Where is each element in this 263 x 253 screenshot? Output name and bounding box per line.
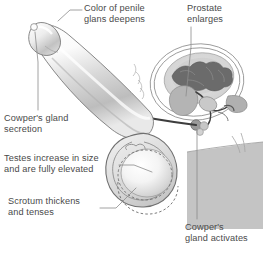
callout-label-scrotum: Scrotum thickens and tenses: [8, 196, 113, 219]
cowpers-gland: [191, 120, 208, 136]
body-mass: [187, 133, 263, 229]
callout-label-prostate: Prostate enlarges: [187, 3, 259, 26]
callout-label-cowpers-gland-secretion: Cowper's gland secretion: [4, 113, 99, 136]
callout-label-cowpers-gland-activates: Cowper's gland activates: [185, 222, 263, 245]
anatomy-figure: Color of penile glans deepens Prostate e…: [0, 0, 263, 253]
callout-label-glans: Color of penile glans deepens: [84, 3, 184, 26]
prostate-gland: [169, 86, 197, 116]
callout-label-testes: Testes increase in size and are fully el…: [4, 153, 124, 176]
leader-line-glans: [58, 10, 82, 21]
testis: [121, 149, 173, 197]
urethral-meatus: [31, 24, 38, 31]
shaft-texture: [133, 64, 144, 99]
